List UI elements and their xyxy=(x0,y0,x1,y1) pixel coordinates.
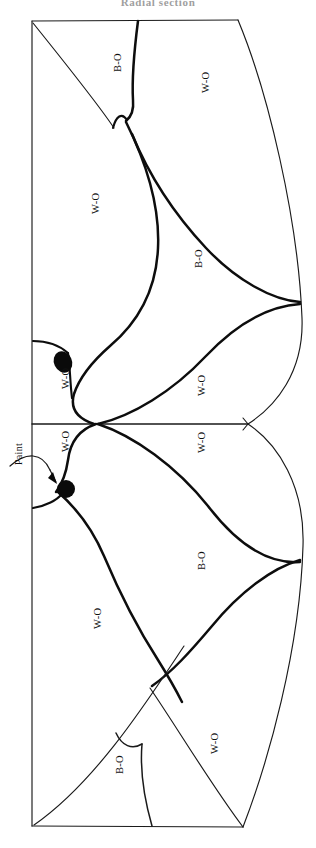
paint-blob-lower xyxy=(57,480,75,498)
region-label-w-o-2: W-O xyxy=(90,193,101,214)
region-label-b-o-2: B-O xyxy=(193,249,204,268)
grain-wedge-lower-left xyxy=(33,494,62,508)
region-label-b-o-3: B-O xyxy=(196,551,207,570)
grain-line-lower-diagonal xyxy=(34,646,184,825)
board-bottom-edge xyxy=(32,826,243,827)
grain-arc-lower-junction xyxy=(116,733,142,747)
technical-drawing-canvas xyxy=(0,0,316,848)
region-label-b-o-4: B-O xyxy=(114,755,125,774)
grain-boundary-bottom-wedge xyxy=(141,744,152,826)
region-label-w-o-3: W-O xyxy=(60,368,71,389)
region-label-w-o-7: W-O xyxy=(92,608,103,629)
grain-wedge-upper-left xyxy=(33,341,68,353)
region-label-w-o-6: W-O xyxy=(196,432,207,453)
grain-boundary-upper-main xyxy=(73,122,158,424)
region-label-b-o-1: B-O xyxy=(112,53,123,72)
board-top-edge xyxy=(32,20,238,21)
grain-boundary-lower-right xyxy=(152,560,300,686)
grain-boundary-bottom-right xyxy=(150,688,243,827)
figure-root: Radial section xyxy=(0,0,316,848)
region-label-w-o-1: W-O xyxy=(200,72,211,93)
region-label-w-o-4: W-O xyxy=(196,375,207,396)
grain-boundary-lower-main xyxy=(58,492,182,702)
paint-callout-label: Paint xyxy=(13,443,24,465)
grain-boundary-upper-left xyxy=(126,21,138,121)
region-label-w-o-8: W-O xyxy=(209,733,220,754)
grain-line-upper-diagonal xyxy=(33,23,114,128)
board-right-edge-lower xyxy=(243,424,303,827)
region-label-w-o-5: W-O xyxy=(60,431,71,452)
board-right-edge-upper xyxy=(238,20,302,424)
paint-leader-arrowhead xyxy=(48,472,57,484)
